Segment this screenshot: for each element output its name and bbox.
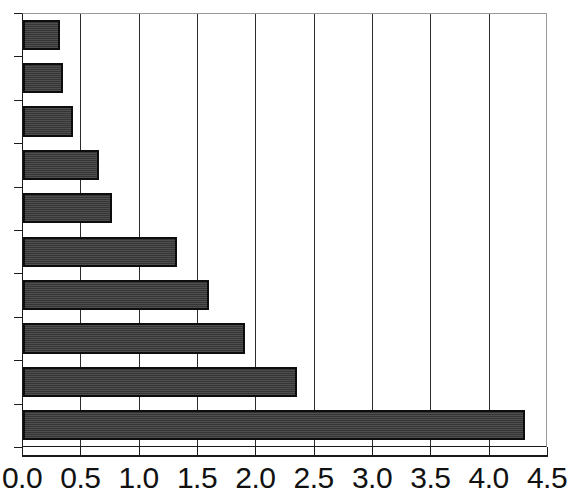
x-axis-label: 2.5 [284, 461, 344, 495]
y-axis-category-label: n [0, 27, 14, 41]
y-axis-label-strip: nnnnnnnnnn [0, 0, 14, 458]
gridline-3.5 [430, 14, 431, 446]
x-axis-line [22, 455, 548, 457]
y-tick [14, 56, 22, 57]
gridline-3.0 [372, 14, 373, 446]
x-axis-label: 0.5 [50, 461, 110, 495]
y-axis-category-label: n [0, 287, 14, 301]
bar [23, 106, 73, 136]
x-axis-label: 3.5 [400, 461, 460, 495]
x-axis-label: 1.5 [167, 461, 227, 495]
bar [23, 63, 63, 93]
y-tick [14, 317, 22, 318]
y-axis-category-label: n [0, 374, 14, 388]
bar [23, 410, 525, 440]
y-tick [14, 230, 22, 231]
x-axis-label: 4.0 [459, 461, 519, 495]
y-tick [14, 273, 22, 274]
y-axis-category-label: n [0, 417, 14, 431]
bar [23, 237, 177, 267]
x-axis-label: 1.0 [109, 461, 169, 495]
y-axis-category-label: n [0, 70, 14, 84]
x-axis-label: 2.0 [225, 461, 285, 495]
x-axis-label: 0.0 [0, 461, 52, 495]
bar [23, 193, 112, 223]
y-axis-category-label: n [0, 200, 14, 214]
bar [23, 20, 60, 50]
y-axis-category-label: n [0, 244, 14, 258]
y-tick [14, 13, 22, 14]
bar [23, 323, 245, 353]
y-tick [14, 404, 22, 405]
bar [23, 367, 297, 397]
bar [23, 280, 209, 310]
y-tick [14, 100, 22, 101]
y-tick [14, 360, 22, 361]
y-axis-category-label: n [0, 157, 14, 171]
y-tick [14, 187, 22, 188]
y-tick [14, 447, 22, 448]
y-axis-category-label: n [0, 331, 14, 345]
x-axis-label: 3.0 [342, 461, 402, 495]
bar [23, 150, 99, 180]
gridline-2.5 [314, 14, 315, 446]
gridline-4.0 [489, 14, 490, 446]
x-axis-label: 4.5 [517, 461, 572, 495]
y-axis-category-label: n [0, 114, 14, 128]
y-tick [14, 143, 22, 144]
